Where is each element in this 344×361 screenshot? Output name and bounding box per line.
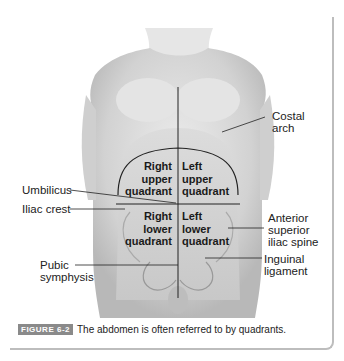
label-line: Costal bbox=[272, 110, 305, 122]
quadrant-line: upper bbox=[122, 173, 172, 186]
label-line: Pubic bbox=[40, 259, 94, 271]
figure-caption: FIGURE 6-2 The abdomen is often referred… bbox=[18, 324, 286, 335]
label-line: Inguinal bbox=[264, 253, 307, 265]
quadrant-line: lower bbox=[122, 223, 172, 236]
quadrant-line: Left bbox=[182, 160, 229, 173]
label-line: ligament bbox=[264, 265, 307, 277]
label-line: superior bbox=[268, 224, 319, 236]
quadrant-right-upper: Right upper quadrant bbox=[122, 160, 172, 198]
quadrant-line: Right bbox=[122, 160, 172, 173]
label-pubic-symphysis: Pubic symphysis bbox=[40, 259, 94, 283]
quadrant-line: Left bbox=[182, 210, 229, 223]
label-line: Anterior bbox=[268, 212, 319, 224]
caption-text: The abdomen is often referred to by quad… bbox=[77, 324, 286, 335]
label-inguinal-ligament: Inguinal ligament bbox=[264, 253, 307, 277]
label-line: arch bbox=[272, 122, 305, 134]
label-iliac-crest: Iliac crest bbox=[22, 203, 71, 215]
label-line: symphysis bbox=[40, 271, 94, 283]
figure-number-badge: FIGURE 6-2 bbox=[18, 324, 73, 335]
quadrant-line: lower bbox=[182, 223, 229, 236]
quadrant-line: quadrant bbox=[182, 235, 229, 248]
quadrant-line: quadrant bbox=[182, 185, 229, 198]
label-umbilicus: Umbilicus bbox=[22, 184, 72, 196]
quadrant-left-lower: Left lower quadrant bbox=[182, 210, 229, 248]
label-anterior-superior-iliac-spine: Anterior superior iliac spine bbox=[268, 212, 319, 248]
quadrant-left-upper: Left upper quadrant bbox=[182, 160, 229, 198]
label-costal-arch: Costal arch bbox=[272, 110, 305, 134]
torso-illustration bbox=[0, 0, 344, 361]
quadrant-line: quadrant bbox=[122, 185, 172, 198]
quadrant-line: Right bbox=[122, 210, 172, 223]
quadrant-line: quadrant bbox=[122, 235, 172, 248]
quadrant-right-lower: Right lower quadrant bbox=[122, 210, 172, 248]
label-line: iliac spine bbox=[268, 236, 319, 248]
quadrant-line: upper bbox=[182, 173, 229, 186]
